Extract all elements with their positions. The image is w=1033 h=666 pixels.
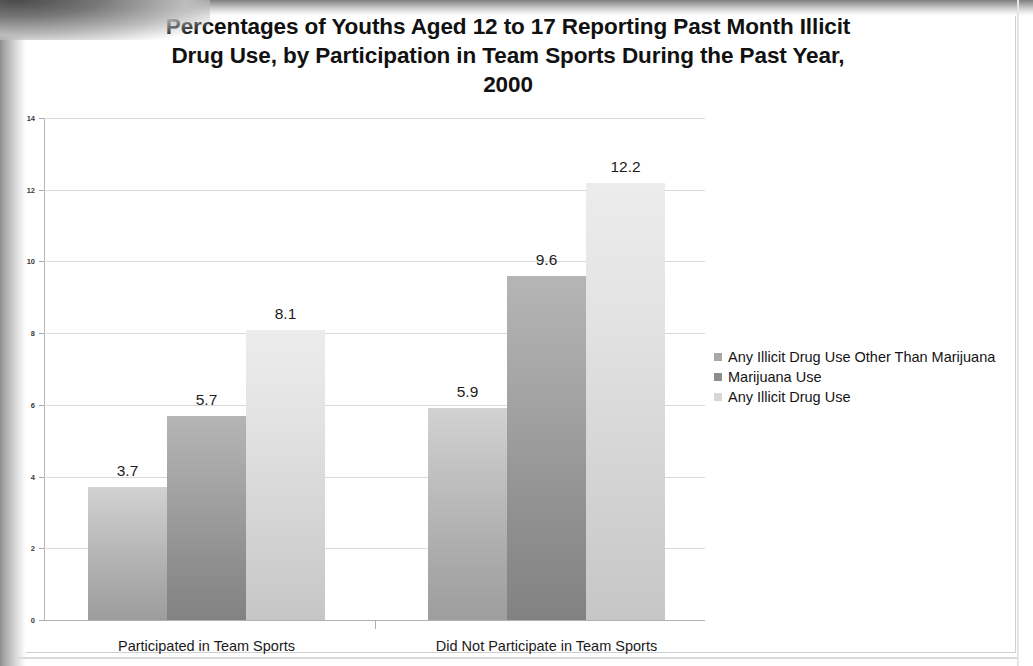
bar-value-label: 3.7 xyxy=(117,462,139,480)
bar xyxy=(88,487,167,620)
bar xyxy=(586,183,665,620)
page-edge-bottom xyxy=(18,657,1017,659)
legend-label: Any Illicit Drug Use Other Than Marijuan… xyxy=(728,349,995,365)
legend-swatch-icon xyxy=(714,353,722,361)
bar xyxy=(507,276,586,620)
legend-swatch-icon xyxy=(714,393,722,401)
legend-swatch-icon xyxy=(714,373,722,381)
y-tick-label: 12 xyxy=(27,185,35,194)
plot-area: 02468101214 3.75.78.15.99.612.2 Particip… xyxy=(44,118,705,620)
y-tick-mark xyxy=(39,190,44,191)
y-tick-mark xyxy=(39,333,44,334)
chart-title-line-3: 2000 xyxy=(96,70,920,99)
y-tick-label: 8 xyxy=(31,329,35,338)
bar xyxy=(428,408,507,620)
legend-label: Any Illicit Drug Use xyxy=(728,389,850,405)
y-tick-label: 2 xyxy=(31,544,35,553)
legend-item: Marijuana Use xyxy=(714,367,1024,387)
chart-title-line-1: Percentages of Youths Aged 12 to 17 Repo… xyxy=(96,12,920,41)
y-tick-mark xyxy=(39,405,44,406)
bar-value-label: 12.2 xyxy=(610,158,640,176)
y-tick-label: 0 xyxy=(31,616,35,625)
category-label: Did Not Participate in Team Sports xyxy=(436,638,657,654)
bar xyxy=(246,330,325,620)
y-tick-mark xyxy=(39,118,44,119)
scanned-chart-page: Percentages of Youths Aged 12 to 17 Repo… xyxy=(0,0,1033,666)
y-tick-label: 4 xyxy=(31,472,35,481)
category-separator-tick xyxy=(375,620,376,629)
y-tick-mark xyxy=(39,620,44,621)
bar-value-label: 9.6 xyxy=(536,251,558,269)
y-axis-line xyxy=(44,118,45,620)
category-label: Participated in Team Sports xyxy=(118,638,295,654)
bar-value-label: 5.9 xyxy=(457,383,479,401)
y-tick-mark xyxy=(39,261,44,262)
page-edge-right xyxy=(1017,0,1019,666)
y-tick-label: 14 xyxy=(27,114,35,123)
chart-legend: Any Illicit Drug Use Other Than Marijuan… xyxy=(714,347,1024,407)
y-tick-mark xyxy=(39,548,44,549)
bar-value-label: 5.7 xyxy=(196,391,218,409)
chart-title-line-2: Drug Use, by Participation in Team Sport… xyxy=(96,41,920,70)
legend-label: Marijuana Use xyxy=(728,369,822,385)
legend-item: Any Illicit Drug Use xyxy=(714,387,1024,407)
y-tick-mark xyxy=(39,477,44,478)
y-tick-label: 10 xyxy=(27,257,35,266)
gridline xyxy=(44,118,705,119)
chart-title: Percentages of Youths Aged 12 to 17 Repo… xyxy=(96,12,920,99)
legend-item: Any Illicit Drug Use Other Than Marijuan… xyxy=(714,347,1024,367)
y-tick-label: 6 xyxy=(31,400,35,409)
bar xyxy=(167,416,246,620)
bar-value-label: 8.1 xyxy=(275,305,297,323)
